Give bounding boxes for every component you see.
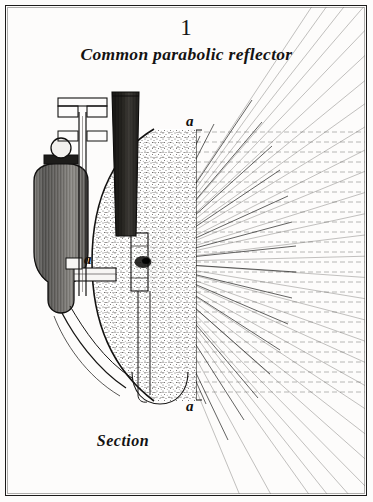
lamp-assembly: [0, 0, 373, 502]
oil-reservoir: [34, 138, 88, 313]
label-aperture-bottom: a: [186, 399, 194, 414]
lamp-chimney: [112, 92, 139, 236]
engraving-plate: 1 Common parabolic reflector Section a a…: [0, 0, 373, 502]
label-aperture-mid: a: [84, 252, 92, 267]
lamp-support-arm: [54, 306, 132, 396]
figure-caption: Section: [58, 432, 188, 450]
label-aperture-top: a: [186, 114, 194, 129]
figure-title: Common parabolic reflector: [0, 45, 373, 64]
figure-number: 1: [0, 16, 373, 39]
